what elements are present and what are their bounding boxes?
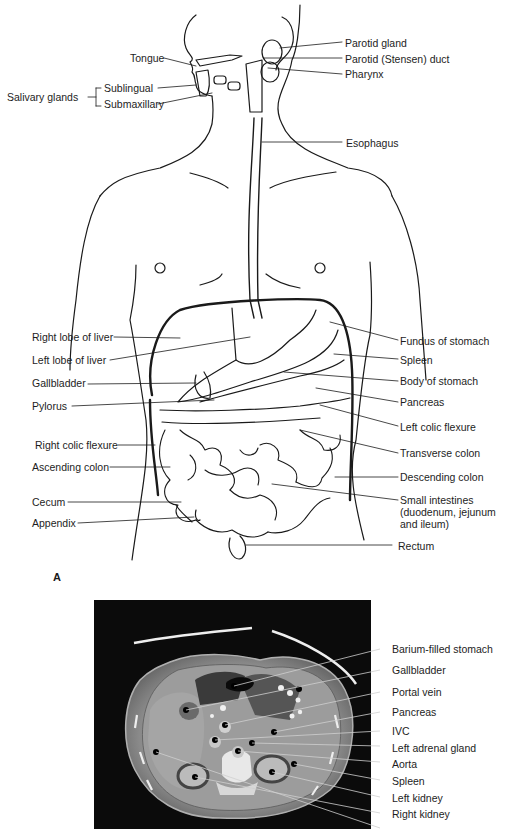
label-right-kidney: Right kidney: [392, 808, 450, 820]
label-ct-pancreas: Pancreas: [392, 706, 436, 718]
label-portal-vein: Portal vein: [392, 686, 442, 698]
label-ivc: IVC: [392, 725, 410, 737]
ct-scan-overlay: [0, 0, 514, 829]
label-aorta: Aorta: [392, 758, 417, 770]
label-barium-stomach: Barium-filled stomach: [392, 643, 493, 655]
label-left-kidney: Left kidney: [392, 792, 443, 804]
label-ct-spleen: Spleen: [392, 775, 425, 787]
label-left-adrenal: Left adrenal gland: [392, 742, 476, 754]
label-ct-gallbladder: Gallbladder: [392, 664, 446, 676]
